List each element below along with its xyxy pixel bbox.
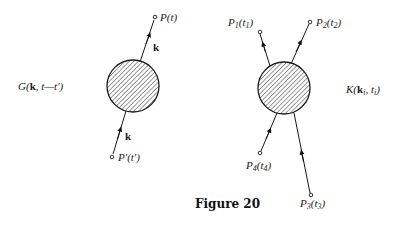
func-symbol: G — [18, 80, 26, 92]
arrow-icon — [118, 129, 121, 139]
arrow-icon — [296, 42, 301, 52]
endpoint-label-P4: P4(t4) — [246, 160, 271, 171]
endpoint-P-prime — [110, 155, 114, 159]
momentum-label-in: k — [125, 131, 131, 142]
two-point-diagram — [107, 15, 159, 159]
endpoint-P1 — [258, 30, 262, 34]
endpoint-label-P2: P2(t2) — [316, 17, 341, 28]
endpoint-P2 — [308, 20, 312, 24]
figure-caption: Figure 20 — [195, 198, 260, 210]
point-name: P′ — [118, 151, 127, 163]
momentum-label-out: k — [153, 42, 159, 53]
arrow-icon — [146, 35, 150, 45]
endpoint-label-P1: P1(t1) — [228, 17, 253, 28]
four-point-function-label: K(ki, ti) — [346, 84, 380, 95]
feynman-diagrams — [0, 0, 404, 225]
arrow-icon — [266, 130, 270, 139]
hatched-blob — [258, 62, 310, 114]
point-time: t — [170, 11, 173, 23]
arrow-icon — [263, 44, 266, 52]
point-time: t′ — [131, 151, 136, 163]
endpoint-P4 — [258, 151, 262, 155]
hatched-blob — [107, 60, 159, 112]
point-name: P — [160, 11, 167, 23]
time-difference: , t—t′) — [36, 80, 63, 92]
endpoint-label-P-prime: P′(t′) — [118, 152, 140, 163]
endpoint-P — [153, 15, 157, 19]
green-function-label: G(k, t—t′) — [18, 81, 63, 92]
endpoint-label-P3: P3(t3) — [300, 198, 325, 209]
endpoint-label-P: P(t) — [160, 12, 177, 23]
